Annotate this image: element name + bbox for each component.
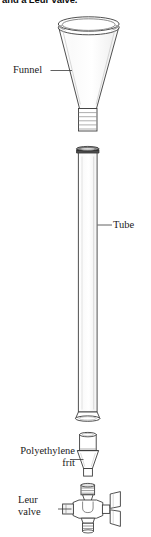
frit-outlet-nipple <box>84 469 93 477</box>
funnel-stem <box>79 109 98 132</box>
valve-part <box>63 483 121 533</box>
valve-handle-upper <box>110 492 120 509</box>
label-polyethylene-frit: Polyethylene frit <box>2 445 75 468</box>
label-valve-line2: valve <box>18 506 62 518</box>
label-valve-line1: Leur <box>18 494 62 506</box>
tube-top-bore <box>80 148 96 151</box>
label-frit-line1: Polyethylene <box>2 445 75 457</box>
label-leur-valve: Leur valve <box>18 494 62 517</box>
funnel-rim-inner <box>62 19 115 31</box>
frit-part <box>77 432 98 476</box>
valve-handle-lower <box>110 510 120 527</box>
tube-bottom-bore <box>79 417 96 420</box>
label-tube: Tube <box>113 219 134 231</box>
funnel-part <box>58 17 119 131</box>
label-tube-text: Tube <box>113 219 134 230</box>
valve-bottom-neck <box>81 518 94 523</box>
label-funnel: Funnel <box>13 64 42 76</box>
tube-part <box>76 146 100 421</box>
valve-top-fitting-rim <box>81 483 95 487</box>
label-frit-line2: frit <box>2 457 75 469</box>
figure-root: and a Leur valve. <box>0 0 151 537</box>
frit-collar-bore <box>82 433 93 436</box>
label-funnel-text: Funnel <box>13 64 42 75</box>
funnel-cone <box>59 27 120 109</box>
tube-barrel <box>78 153 97 412</box>
valve-outlet-rim <box>83 530 94 533</box>
valve-right-stem <box>102 505 109 513</box>
valve-body <box>73 500 103 518</box>
